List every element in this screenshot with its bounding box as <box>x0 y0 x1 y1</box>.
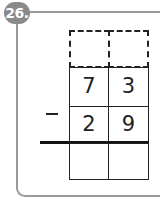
problem-number-badge: 26. <box>4 2 30 24</box>
subtrahend-ones: 9 <box>108 106 149 143</box>
answer-box-ones[interactable] <box>108 143 149 180</box>
answer-box-tens[interactable] <box>69 143 109 180</box>
carry-box-ones[interactable] <box>108 30 149 68</box>
minuend-ones: 3 <box>108 67 149 107</box>
minuend-tens: 7 <box>69 67 109 107</box>
minus-sign <box>46 113 58 115</box>
subtrahend-tens: 2 <box>69 106 109 143</box>
carry-box-tens[interactable] <box>69 30 110 68</box>
